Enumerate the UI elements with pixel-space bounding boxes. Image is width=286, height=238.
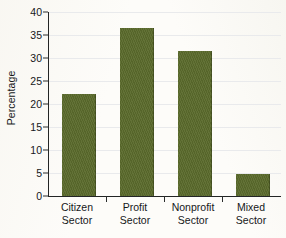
y-axis-tick-label: 40 [20, 7, 42, 18]
x-axis-tick-label-line1: Nonprofit [164, 201, 222, 214]
x-axis-tick-labels: CitizenSectorProfitSectorNonprofitSector… [48, 201, 280, 237]
y-axis-tick-label: 5 [20, 168, 42, 179]
y-axis-tick-label: 20 [20, 99, 42, 110]
x-axis-tick-label: ProfitSector [106, 201, 164, 226]
y-axis-tick-label: 30 [20, 53, 42, 64]
y-axis-tick-label: 0 [20, 191, 42, 202]
y-axis-title: Percentage [0, 0, 22, 196]
bar [62, 94, 96, 196]
plot-area [48, 12, 281, 197]
x-axis-tick-label: CitizenSector [48, 201, 106, 226]
bar [120, 28, 154, 196]
x-axis-tick-label-line2: Sector [164, 214, 222, 227]
x-axis-tick-label-line1: Citizen [48, 201, 106, 214]
x-axis-tick-label: NonprofitSector [164, 201, 222, 226]
x-axis-tick-label-line1: Profit [106, 201, 164, 214]
x-axis-tick-label-line2: Sector [106, 214, 164, 227]
y-axis-title-text: Percentage [5, 71, 17, 126]
y-axis-tick-label: 25 [20, 76, 42, 87]
y-axis-tick-labels: 0510152025303540 [20, 0, 42, 196]
bar-chart-figure: Percentage 0510152025303540 CitizenSecto… [0, 0, 286, 238]
bar [236, 174, 270, 196]
y-axis-tick-label: 15 [20, 122, 42, 133]
y-axis-tick-label: 10 [20, 145, 42, 156]
x-axis-tick-label-line1: Mixed [222, 201, 280, 214]
bars-layer [49, 12, 281, 196]
x-axis-tick-label: MixedSector [222, 201, 280, 226]
x-axis-tick-label-line2: Sector [222, 214, 280, 227]
y-axis-tick-label: 35 [20, 30, 42, 41]
x-axis-tick-label-line2: Sector [48, 214, 106, 227]
bar [178, 51, 212, 196]
